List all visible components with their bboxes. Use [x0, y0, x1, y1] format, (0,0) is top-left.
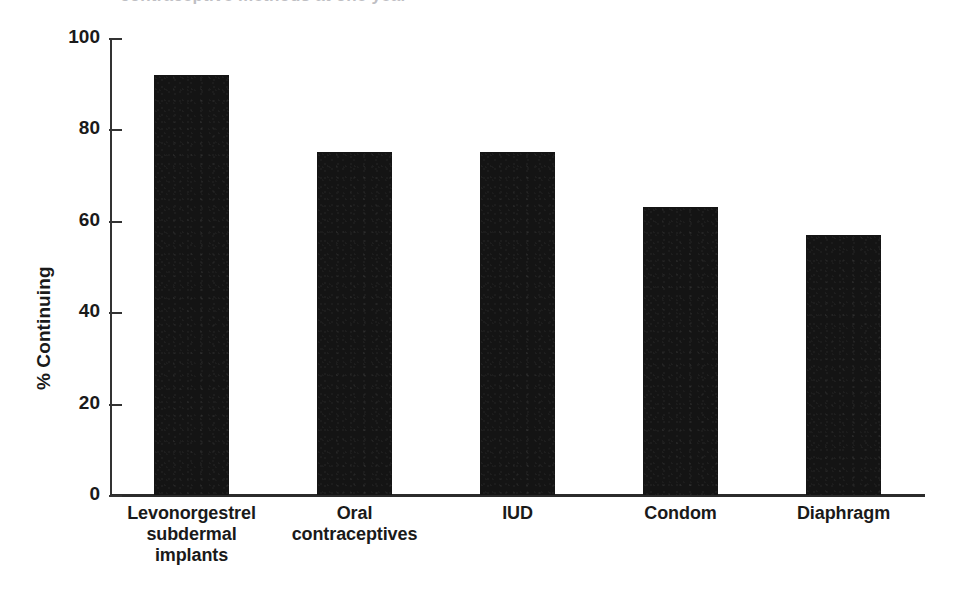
x-axis-category-label: Condom [599, 503, 762, 524]
x-axis-category-label-line: Diaphragm [762, 503, 925, 524]
x-axis-category-label-line: Oral [273, 503, 436, 524]
bar-slot [273, 38, 436, 495]
bar-slot [110, 38, 273, 495]
x-axis-category-label: Oralcontraceptives [273, 503, 436, 545]
plot-area: 020406080100 [110, 38, 925, 495]
x-axis-category-label: Diaphragm [762, 503, 925, 524]
x-axis-category-label-line: implants [110, 545, 273, 566]
y-axis-tick-mark [109, 495, 122, 497]
clipped-header-text: contraceptive methods at one year [120, 0, 407, 6]
clipped-header-remnant: contraceptive methods at one year [0, 0, 956, 10]
y-axis-tick-label: 20 [79, 392, 100, 414]
bar[interactable] [317, 152, 392, 495]
bar-slot [762, 38, 925, 495]
bars-layer [110, 38, 925, 495]
bar[interactable] [480, 152, 555, 495]
y-axis-tick-label: 100 [68, 26, 100, 48]
bar-slot [599, 38, 762, 495]
bar-slot [436, 38, 599, 495]
y-axis-tick-label: 60 [79, 209, 100, 231]
x-axis-category-label-line: IUD [436, 503, 599, 524]
y-axis-tick-label: 0 [89, 483, 100, 505]
y-axis-title: % Continuing [33, 266, 55, 390]
category-labels-layer: LevonorgestrelsubdermalimplantsOralcontr… [110, 503, 925, 589]
x-axis-category-label: Levonorgestrelsubdermalimplants [110, 503, 273, 566]
bar[interactable] [154, 75, 229, 495]
y-axis-tick-label: 40 [79, 300, 100, 322]
bar[interactable] [806, 235, 881, 495]
x-axis-category-label-line: Levonorgestrel [110, 503, 273, 524]
x-axis-category-label-line: subdermal [110, 524, 273, 545]
x-axis-category-label-line: Condom [599, 503, 762, 524]
x-axis-category-label-line: contraceptives [273, 524, 436, 545]
y-axis-tick-label: 80 [79, 117, 100, 139]
bar[interactable] [643, 207, 718, 495]
bar-chart-figure: contraceptive methods at one year % Cont… [0, 0, 956, 591]
x-axis-category-label: IUD [436, 503, 599, 524]
